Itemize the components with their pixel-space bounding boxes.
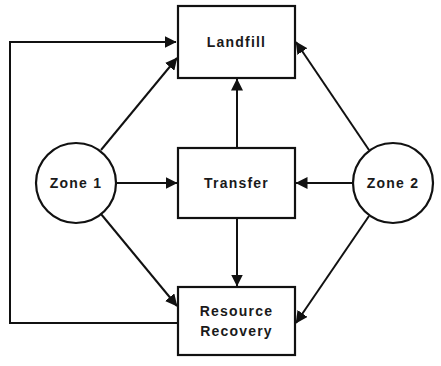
node-label-transfer: Transfer — [204, 175, 269, 191]
flow-diagram: Landfill Transfer Resource Recovery Zone… — [0, 0, 441, 366]
node-label-resource: Resource — [200, 303, 273, 319]
node-label-landfill: Landfill — [207, 34, 266, 50]
edge-zone1-to-recovery — [101, 214, 177, 306]
edge-zone2-to-recovery — [296, 216, 369, 323]
node-label-zone2: Zone 2 — [367, 175, 419, 191]
edge-zone1-to-landfill — [101, 58, 177, 150]
node-label-recovery: Recovery — [200, 323, 273, 339]
node-landfill: Landfill — [178, 6, 295, 78]
node-zone2: Zone 2 — [353, 143, 433, 223]
edge-zone2-to-landfill — [296, 42, 369, 150]
node-transfer: Transfer — [178, 148, 295, 218]
node-zone1: Zone 1 — [36, 143, 116, 223]
node-label-zone1: Zone 1 — [50, 175, 102, 191]
node-resource-recovery: Resource Recovery — [178, 287, 295, 355]
